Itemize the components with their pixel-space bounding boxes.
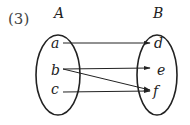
element-f: f (152, 83, 161, 99)
element-e: e (157, 62, 165, 78)
set-a-title: A (52, 5, 64, 21)
mapping-diagram: (3) A B a b c d e f (0, 0, 190, 125)
element-d: d (154, 35, 163, 51)
arrow-c-to-f (63, 91, 150, 92)
problem-number: (3) (8, 10, 29, 28)
element-a: a (51, 35, 59, 51)
set-b-title: B (152, 5, 163, 21)
element-c: c (51, 81, 59, 97)
element-b: b (51, 62, 60, 78)
